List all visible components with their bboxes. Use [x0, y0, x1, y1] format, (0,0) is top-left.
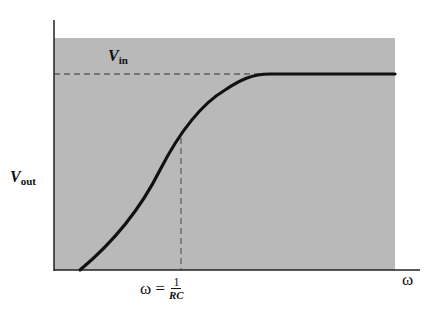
cutoff-frequency-label: ω = 1 RC: [140, 276, 184, 301]
fraction: 1 RC: [169, 276, 184, 301]
vin-label: Vin: [108, 47, 128, 66]
plot-area: [0, 0, 446, 312]
omega-equals: ω =: [140, 279, 165, 299]
x-axis-label: ω: [402, 270, 413, 290]
vout-label: Vout: [10, 168, 36, 187]
